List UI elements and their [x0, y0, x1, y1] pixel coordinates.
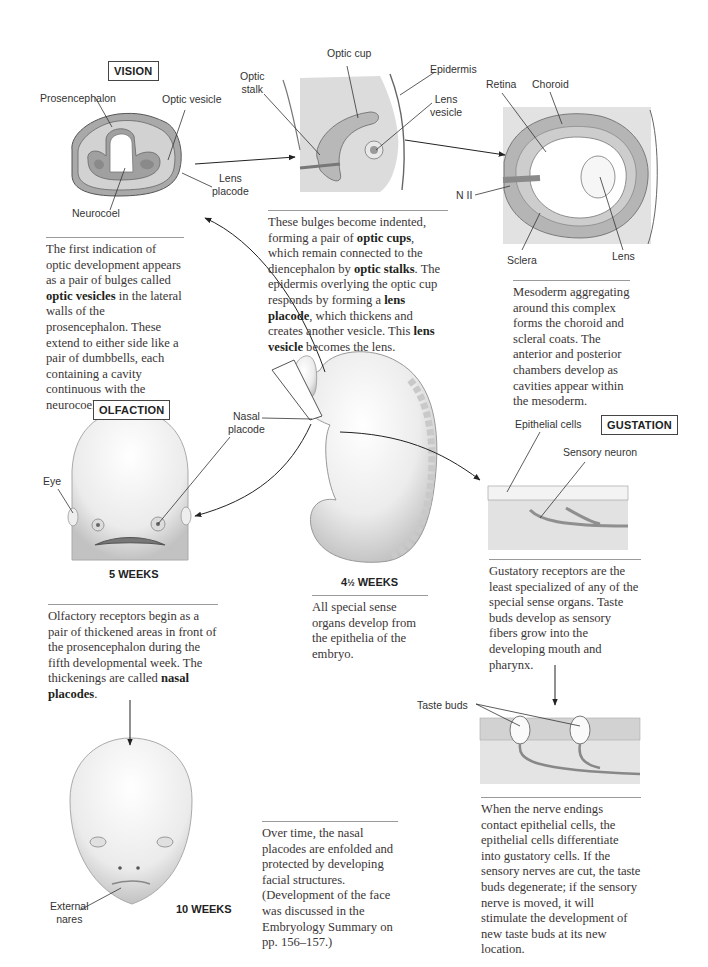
eye-diagram	[503, 107, 657, 244]
caption-taste-buds: When the nerve endings contact epithelia…	[481, 797, 641, 958]
label-eye: Eye	[43, 475, 61, 488]
label-sensory-neuron: Sensory neuron	[563, 446, 637, 459]
label-prosencephalon: Prosencephalon	[40, 92, 116, 105]
label-lens-placode: Lens placode	[212, 172, 249, 198]
face-5-weeks	[68, 410, 191, 560]
face-10-weeks	[70, 738, 192, 904]
label-retina: Retina	[486, 78, 516, 91]
caption-facial-structures: Over time, the nasal placodes are enfold…	[262, 821, 398, 951]
label-external-nares: External nares	[50, 900, 89, 926]
label-optic-cup: Optic cup	[327, 47, 371, 60]
optic-vesicle-diagram	[72, 113, 181, 196]
label-neurocoel: Neurocoel	[72, 207, 120, 220]
label-lens: Lens	[612, 250, 635, 263]
caption-nasal-placodes: Olfactory receptors begin as a pair of t…	[48, 604, 218, 703]
optic-cup-diagram	[283, 74, 404, 192]
olfaction-heading: OLFACTION	[93, 400, 170, 420]
label-optic-vesicle: Optic vesicle	[162, 93, 222, 106]
label-n-ii: N II	[456, 189, 472, 202]
label-epithelial-cells: Epithelial cells	[515, 418, 582, 431]
vision-heading: VISION	[108, 61, 159, 81]
label-nasal-placode: Nasal placode	[228, 410, 265, 436]
caption-mesoderm: Mesoderm aggregating around this complex…	[513, 280, 630, 410]
embryo-illustration	[272, 352, 437, 563]
age-10-weeks: 10 WEEKS	[176, 903, 232, 915]
label-optic-stalk: Optic stalk	[240, 70, 265, 96]
caption-optic-cups: These bulges become indented, forming a …	[268, 210, 448, 355]
gustation-heading: GUSTATION	[601, 415, 678, 435]
taste-bud-diagram	[480, 716, 640, 784]
label-taste-buds: Taste buds	[417, 699, 468, 712]
label-epidermis: Epidermis	[430, 63, 477, 76]
caption-gustatory-receptors: Gustatory receptors are the least specia…	[489, 559, 641, 673]
age-5-weeks: 5 WEEKS	[109, 568, 159, 580]
age-4-5-weeks: 4½ WEEKS	[341, 576, 398, 588]
caption-optic-vesicles: The first indication of optic developmen…	[46, 237, 184, 414]
label-sclera: Sclera	[507, 254, 537, 267]
label-lens-vesicle: Lens vesicle	[430, 93, 462, 119]
label-choroid: Choroid	[532, 78, 569, 91]
caption-embryo: All special sense organs develop from th…	[312, 595, 428, 662]
